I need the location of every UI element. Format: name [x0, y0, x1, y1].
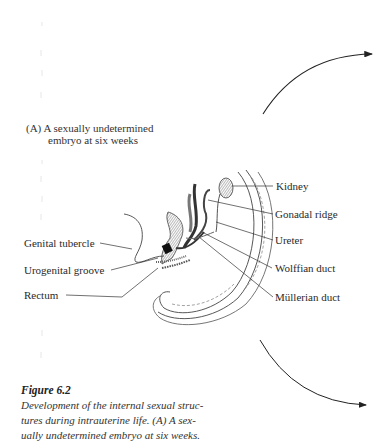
label-wolffian-duct: Wolffian duct	[275, 262, 335, 274]
panel-heading-line2: embryo at six weeks	[48, 134, 138, 146]
label-kidney: Kidney	[276, 180, 308, 192]
panel-heading: (A) A sexually undetermined	[26, 122, 153, 134]
label-gonadal-ridge: Gonadal ridge	[275, 208, 338, 220]
embryo-illustration	[0, 0, 383, 441]
panel-marker: (A)	[26, 122, 41, 134]
label-genital-tubercle: Genital tubercle	[24, 237, 95, 249]
figure-caption-line: tures during intrauterine life. (A) A se…	[21, 413, 196, 428]
label-rectum: Rectum	[24, 289, 58, 301]
label-mullerian-duct: Müllerian duct	[275, 291, 340, 303]
urogenital-sinus	[162, 212, 183, 264]
arrow-down-right	[260, 340, 366, 405]
figure-caption-title: Figure 6.2	[21, 384, 71, 396]
figure-caption-line: ually undetermined embryo at six weeks.	[21, 428, 200, 441]
arrow-up-right	[263, 54, 372, 114]
label-ureter: Ureter	[275, 234, 303, 246]
ducts	[176, 184, 214, 248]
panel-heading-line1: A sexually undetermined	[43, 122, 153, 134]
genital-tubercle-shape	[124, 214, 164, 262]
label-urogenital-groove: Urogenital groove	[24, 264, 104, 276]
bleed-through-marks	[41, 22, 42, 358]
figure-caption-line: Development of the internal sexual struc…	[21, 398, 203, 413]
